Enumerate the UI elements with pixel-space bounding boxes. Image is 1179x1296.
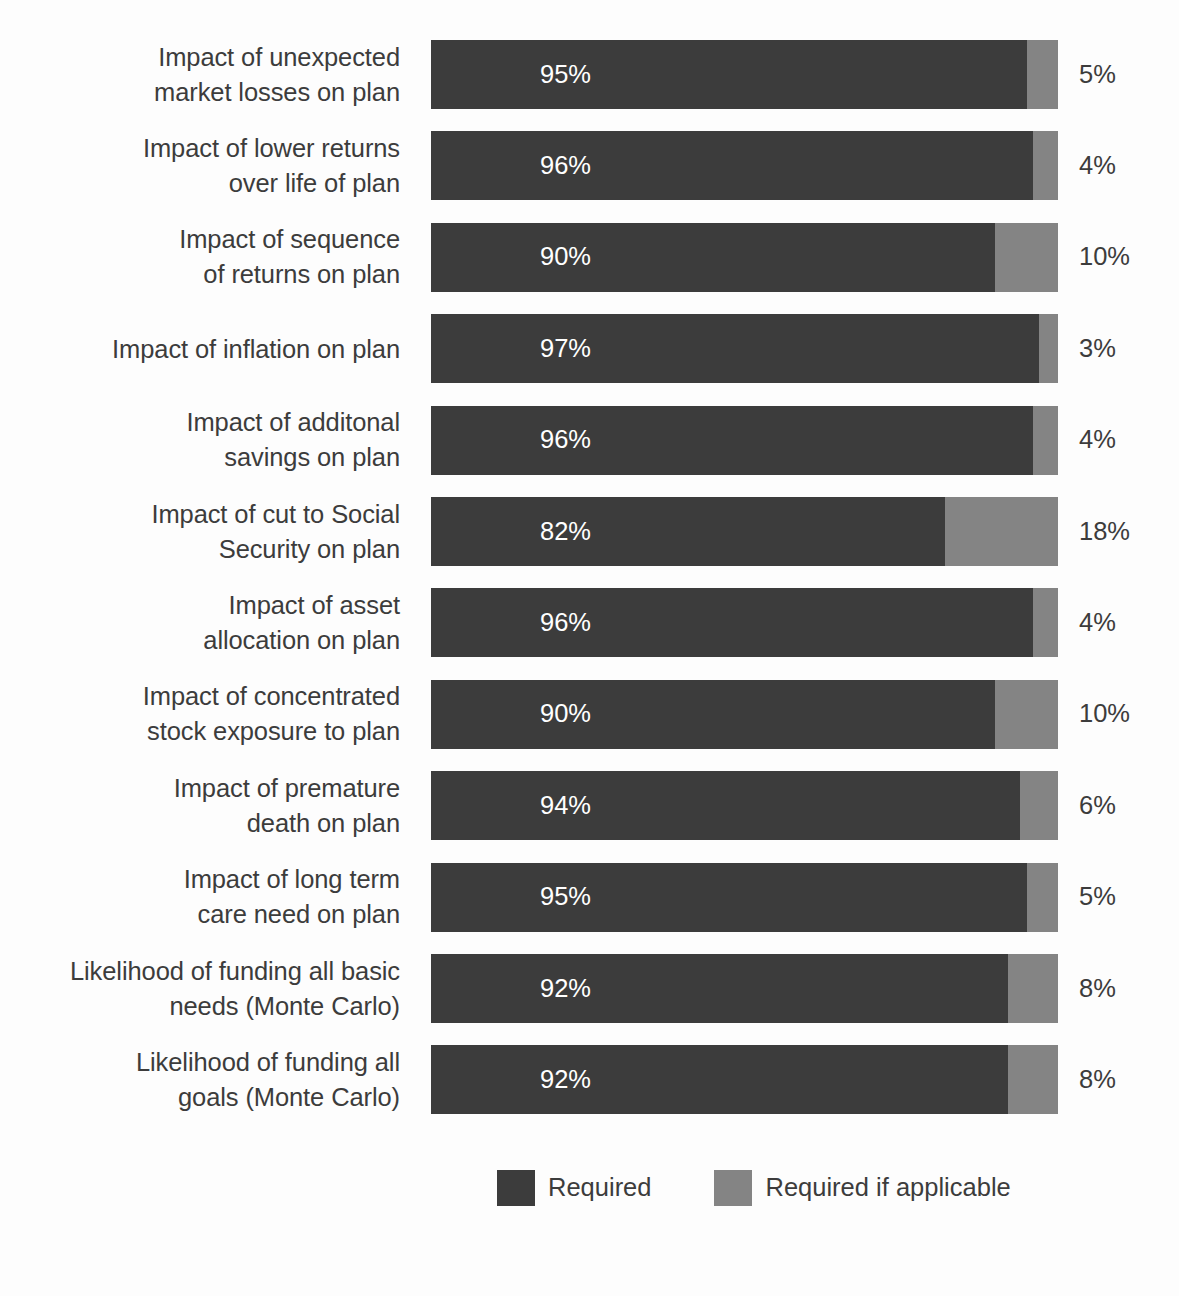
legend-swatch-icon	[497, 1170, 535, 1206]
chart-row: Impact of lower returns over life of pla…	[0, 131, 1179, 200]
bar-segment-required: 94%	[431, 771, 1020, 840]
bar-segment-value: 95%	[540, 62, 591, 88]
bar-segment-value: 82%	[540, 519, 591, 545]
row-secondary-value-label: 10%	[1079, 702, 1130, 728]
row-category-label: Impact of long term care need on plan	[40, 862, 400, 932]
row-secondary-value-label: 6%	[1079, 793, 1116, 819]
bar-segment-required-if-applicable	[945, 497, 1058, 566]
stacked-bar: 95%	[431, 863, 1058, 932]
row-category-label: Likelihood of funding all basic needs (M…	[40, 954, 400, 1024]
stacked-bar: 96%	[431, 588, 1058, 657]
bar-segment-required: 92%	[431, 1045, 1008, 1114]
row-secondary-value-label: 3%	[1079, 336, 1116, 362]
legend-swatch-icon	[714, 1170, 752, 1206]
bar-segment-required-if-applicable	[995, 680, 1058, 749]
chart-row: Impact of long term care need on plan95%…	[0, 863, 1179, 932]
bar-segment-required-if-applicable	[1008, 954, 1058, 1023]
row-secondary-value-label: 4%	[1079, 153, 1116, 179]
chart-row: Impact of unexpected market losses on pl…	[0, 40, 1179, 109]
stacked-bar: 95%	[431, 40, 1058, 109]
row-secondary-value-label: 4%	[1079, 610, 1116, 636]
bar-segment-value: 96%	[540, 610, 591, 636]
bar-segment-value: 90%	[540, 702, 591, 728]
stacked-bar: 82%	[431, 497, 1058, 566]
bar-segment-value: 96%	[540, 427, 591, 453]
bar-segment-required: 96%	[431, 131, 1033, 200]
chart-row: Likelihood of funding all goals (Monte C…	[0, 1045, 1179, 1114]
bar-segment-required: 96%	[431, 406, 1033, 475]
row-category-label: Impact of inflation on plan	[40, 331, 400, 366]
bar-segment-value: 95%	[540, 884, 591, 910]
row-category-label: Impact of unexpected market losses on pl…	[40, 40, 400, 110]
bar-segment-required: 90%	[431, 223, 995, 292]
row-category-label: Impact of additonal savings on plan	[40, 405, 400, 475]
bar-segment-required: 95%	[431, 863, 1027, 932]
bar-segment-required: 96%	[431, 588, 1033, 657]
row-category-label: Impact of concentrated stock exposure to…	[40, 679, 400, 749]
chart-row: Impact of premature death on plan94%6%	[0, 771, 1179, 840]
bar-segment-value: 92%	[540, 1067, 591, 1093]
stacked-bar: 92%	[431, 954, 1058, 1023]
bar-segment-required: 97%	[431, 314, 1039, 383]
bar-segment-value: 92%	[540, 976, 591, 1002]
bar-segment-required-if-applicable	[1027, 863, 1058, 932]
row-category-label: Impact of cut to Social Security on plan	[40, 497, 400, 567]
legend-label: Required if applicable	[765, 1175, 1010, 1201]
legend-item: Required if applicable	[714, 1170, 1010, 1206]
bar-segment-value: 97%	[540, 336, 591, 362]
row-secondary-value-label: 4%	[1079, 427, 1116, 453]
bar-segment-required: 90%	[431, 680, 995, 749]
stacked-bar: 96%	[431, 406, 1058, 475]
chart-row: Impact of asset allocation on plan96%4%	[0, 588, 1179, 657]
row-secondary-value-label: 8%	[1079, 976, 1116, 1002]
stacked-bar-chart: Impact of unexpected market losses on pl…	[0, 0, 1179, 1296]
stacked-bar: 92%	[431, 1045, 1058, 1114]
row-category-label: Likelihood of funding all goals (Monte C…	[40, 1045, 400, 1115]
bar-segment-value: 90%	[540, 245, 591, 271]
chart-row: Impact of additonal savings on plan96%4%	[0, 406, 1179, 475]
chart-row: Impact of inflation on plan97%3%	[0, 314, 1179, 383]
stacked-bar: 94%	[431, 771, 1058, 840]
row-secondary-value-label: 18%	[1079, 519, 1130, 545]
row-category-label: Impact of lower returns over life of pla…	[40, 131, 400, 201]
stacked-bar: 97%	[431, 314, 1058, 383]
chart-row: Likelihood of funding all basic needs (M…	[0, 954, 1179, 1023]
bar-segment-required-if-applicable	[1033, 131, 1058, 200]
chart-row: Impact of sequence of returns on plan90%…	[0, 223, 1179, 292]
row-secondary-value-label: 5%	[1079, 884, 1116, 910]
bar-segment-required: 95%	[431, 40, 1027, 109]
row-secondary-value-label: 8%	[1079, 1067, 1116, 1093]
legend-label: Required	[548, 1175, 651, 1201]
bar-segment-required-if-applicable	[1033, 588, 1058, 657]
bar-segment-required-if-applicable	[1039, 314, 1058, 383]
bar-segment-required-if-applicable	[1033, 406, 1058, 475]
bar-segment-required-if-applicable	[995, 223, 1058, 292]
bar-segment-value: 96%	[540, 153, 591, 179]
row-category-label: Impact of sequence of returns on plan	[40, 222, 400, 292]
chart-legend: RequiredRequired if applicable	[497, 1169, 1011, 1207]
legend-item: Required	[497, 1170, 651, 1206]
bar-segment-required: 92%	[431, 954, 1008, 1023]
bar-segment-required-if-applicable	[1008, 1045, 1058, 1114]
chart-row: Impact of concentrated stock exposure to…	[0, 680, 1179, 749]
bar-segment-value: 94%	[540, 793, 591, 819]
bar-segment-required-if-applicable	[1020, 771, 1058, 840]
bar-segment-required-if-applicable	[1027, 40, 1058, 109]
row-category-label: Impact of premature death on plan	[40, 771, 400, 841]
row-secondary-value-label: 10%	[1079, 245, 1130, 271]
bar-segment-required: 82%	[431, 497, 945, 566]
row-secondary-value-label: 5%	[1079, 62, 1116, 88]
row-category-label: Impact of asset allocation on plan	[40, 588, 400, 658]
chart-row: Impact of cut to Social Security on plan…	[0, 497, 1179, 566]
stacked-bar: 96%	[431, 131, 1058, 200]
stacked-bar: 90%	[431, 680, 1058, 749]
stacked-bar: 90%	[431, 223, 1058, 292]
